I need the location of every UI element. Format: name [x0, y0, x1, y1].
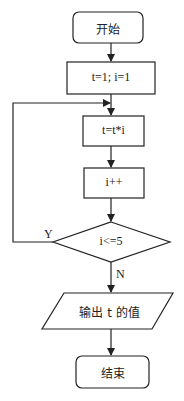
output-node-label: 输出 t 的值 [52, 303, 167, 320]
incr-node-label: i++ [84, 175, 144, 190]
no-branch-label: N [116, 267, 125, 282]
decision-node-label: i<=5 [76, 234, 146, 249]
yes-branch-label: Y [44, 227, 53, 242]
end-node-label: 结束 [76, 364, 149, 381]
init-node-label: t=1; i=1 [67, 70, 155, 85]
mult-node-label: t=t*i [83, 123, 144, 138]
start-node-label: 开始 [73, 20, 143, 37]
flowchart-canvas [0, 0, 184, 401]
